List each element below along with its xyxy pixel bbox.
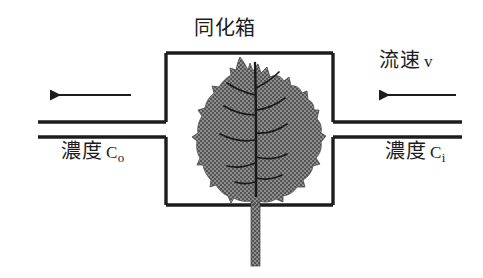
inlet-concentration-label: 濃度Ci bbox=[385, 141, 445, 161]
inlet-pipe bbox=[333, 122, 462, 137]
outlet-pipe bbox=[38, 122, 166, 137]
flow-velocity-word: 流速 bbox=[379, 49, 420, 71]
assimilation-chamber-figure: 同化箱 流速v 濃度Co 濃度Ci bbox=[0, 0, 483, 278]
chamber-title-label: 同化箱 bbox=[194, 18, 256, 38]
leaf-blade bbox=[192, 57, 326, 206]
flow-velocity-label: 流速v bbox=[379, 50, 433, 70]
inlet-concentration-subscript: i bbox=[442, 150, 446, 165]
outlet-concentration-symbol: C bbox=[106, 143, 118, 162]
flow-velocity-symbol: v bbox=[424, 52, 433, 71]
outlet-concentration-subscript: o bbox=[118, 150, 125, 165]
outlet-concentration-word: 濃度 bbox=[61, 140, 102, 162]
inlet-concentration-word: 濃度 bbox=[385, 140, 426, 162]
inlet-concentration-symbol: C bbox=[430, 143, 442, 162]
outlet-concentration-label: 濃度Co bbox=[61, 141, 124, 161]
figure-canvas bbox=[0, 0, 483, 278]
